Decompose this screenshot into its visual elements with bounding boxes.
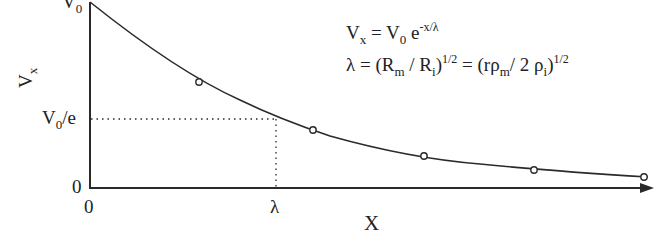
y-tick-mid-rest: /e [62, 107, 76, 128]
marker [196, 79, 202, 85]
x-tick-lambda: λ [270, 197, 279, 216]
plot-canvas [0, 0, 657, 239]
eq2-ri-sub: i [432, 64, 436, 79]
y-tick-zero: 0 [72, 177, 82, 196]
eq2-mid: / R [405, 54, 432, 75]
eq1-exponent: -x/λ [420, 20, 439, 34]
x-axis-arrowhead [640, 183, 654, 193]
y-axis-label: Vx [16, 68, 35, 88]
eq2-exp2: 1/2 [554, 52, 569, 66]
marker [421, 153, 427, 159]
eq2-equals: = (rρ [457, 54, 499, 75]
data-markers [196, 79, 647, 180]
marker [531, 167, 537, 173]
equation-decay: Vx = V0 e-x/λ [346, 23, 439, 42]
x-axis-label: X [364, 213, 379, 234]
y-tick-v0-over-e: V0/e [42, 108, 76, 127]
y-tick-v0-main: V [62, 0, 76, 12]
y-axis-label-sub: x [25, 68, 40, 75]
eq1-lhs-sub: x [360, 32, 367, 47]
eq2-mid2: / 2 ρ [510, 54, 544, 75]
marker [641, 174, 647, 180]
y-tick-mid-sub: 0 [56, 117, 63, 132]
eq2-lambda: λ = (R [346, 54, 394, 75]
eq2-rho-m-sub: m [500, 64, 510, 79]
eq1-lhs: V [346, 22, 360, 43]
eq1-equals-v: = V [366, 22, 400, 43]
eq1-v0-sub: 0 [400, 32, 407, 47]
x-tick-zero: 0 [84, 197, 94, 216]
eq2-exp1: 1/2 [442, 52, 457, 66]
eq2-rm-sub: m [394, 64, 404, 79]
y-tick-v0: V0 [62, 0, 82, 11]
eq2-rho-i-sub: i [544, 64, 548, 79]
marker [310, 127, 316, 133]
y-tick-v0-sub: 0 [76, 1, 83, 16]
y-axis-label-main: V [15, 74, 36, 88]
y-tick-mid-main: V [42, 107, 56, 128]
eq2-close2: ) [547, 54, 553, 75]
equation-lambda: λ = (Rm / Ri)1/2 = (rρm/ 2 ρi)1/2 [346, 55, 569, 74]
eq1-e: e [406, 22, 419, 43]
